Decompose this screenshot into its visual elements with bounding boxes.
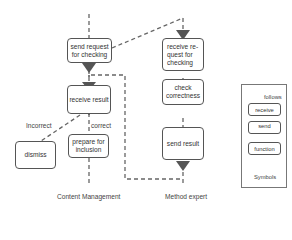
node-check: check correctness (162, 79, 204, 105)
legend-receive: receive (248, 103, 281, 116)
legend-send: send (248, 121, 281, 134)
node-receive-result: receive result (67, 85, 111, 114)
lane-label-method-expert: Method expert (165, 193, 207, 200)
node-prepare: prepare for inclusion (68, 134, 109, 158)
edge-label-incorrect: Incorrect (26, 122, 52, 129)
edge-label-correct: correct (91, 122, 111, 129)
legend-function: function (248, 142, 281, 155)
node-receive-request: receive re-quest for checking (162, 38, 204, 71)
legend-title: Symbols (254, 174, 276, 180)
legend-box: follows receive send function Symbols (241, 84, 287, 188)
lane-label-content-management: Content Management (57, 193, 120, 200)
node-send-request: send request for checking (67, 38, 112, 63)
node-dismiss: dismiss (15, 141, 56, 169)
legend-follows-label: follows (264, 94, 282, 100)
node-send-result: send result (162, 127, 204, 160)
